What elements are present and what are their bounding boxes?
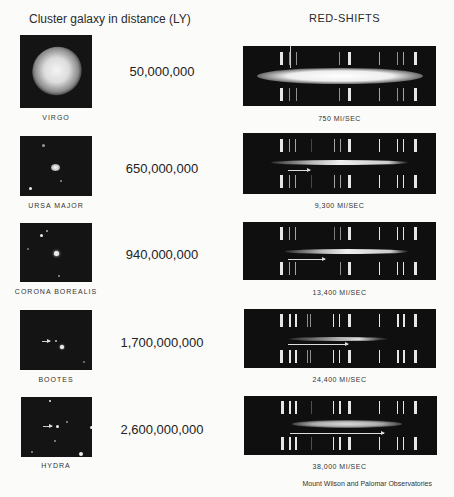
photo-credit: Mount Wilson and Palomar Observatories <box>302 480 432 487</box>
spectrum-band <box>289 337 389 341</box>
galaxy-name: CORONA BOREALIS <box>0 288 112 295</box>
pointer-arrow <box>43 426 52 427</box>
shift-arrow <box>288 259 325 260</box>
galaxy-dot <box>56 425 59 428</box>
distance-value: 2,600,000,000 <box>110 422 214 437</box>
right-column-title: RED-SHIFTS <box>309 12 380 24</box>
shift-arrow <box>288 170 310 171</box>
galaxy-glow <box>23 38 90 105</box>
left-column-title: Cluster galaxy in distance (LY) <box>29 12 191 26</box>
galaxy-name: URSA MAJOR <box>0 202 112 209</box>
spectrum-band <box>257 68 423 84</box>
distance-value: 50,000,000 <box>110 64 214 79</box>
distance-value: 650,000,000 <box>110 161 214 176</box>
galaxy-photo-ursa-major <box>20 136 92 196</box>
distance-value: 1,700,000,000 <box>110 335 214 350</box>
spectrum-band <box>285 249 409 254</box>
spectrum-virgo <box>243 46 436 106</box>
pointer-line <box>290 46 291 68</box>
spectrum-band <box>292 420 402 428</box>
galaxy-photo-bootes <box>20 310 92 370</box>
spectrum-bootes <box>244 309 436 368</box>
shift-arrow <box>288 344 348 345</box>
galaxy-dot <box>51 164 60 171</box>
distance-value: 940,000,000 <box>110 247 214 262</box>
galaxy-dot <box>55 340 57 342</box>
galaxy-dot <box>54 251 59 256</box>
redshift-velocity: 13,400 MI/SEC <box>243 289 436 296</box>
redshift-velocity: 9,300 MI/SEC <box>243 202 436 209</box>
spectrum-corona-borealis <box>243 222 436 280</box>
galaxy-photo-corona-borealis <box>20 223 92 282</box>
galaxy-name: BOOTES <box>0 376 112 383</box>
spectrum-ursa-major <box>243 133 436 194</box>
redshift-velocity: 750 MI/SEC <box>243 115 436 122</box>
pointer-arrow <box>42 341 50 342</box>
redshift-velocity: 24,400 MI/SEC <box>243 376 436 383</box>
spectrum-hydra <box>244 396 437 455</box>
galaxy-photo-virgo <box>20 35 92 108</box>
shift-arrow <box>290 433 384 434</box>
galaxy-name: HYDRA <box>0 462 112 469</box>
spectrum-band <box>271 160 409 165</box>
galaxy-photo-hydra <box>21 397 92 457</box>
redshift-velocity: 38,000 MI/SEC <box>243 463 436 470</box>
galaxy-name: VIRGO <box>0 114 112 121</box>
